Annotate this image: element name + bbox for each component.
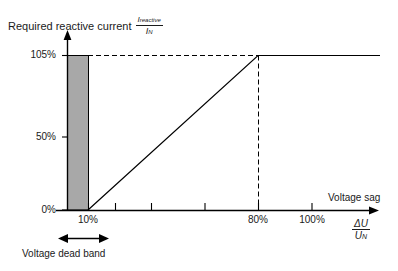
x-tick-label-100: 100% (290, 214, 334, 225)
y-tick-label-0: 0% (12, 204, 56, 215)
plot-canvas (0, 0, 398, 271)
data-series-required-reactive-current (88, 56, 380, 211)
x-tick-label-80: 80% (236, 214, 280, 225)
x-axis-unit-denominator-subscript: N (362, 233, 367, 240)
y-tick-label-105: 105% (12, 49, 56, 60)
y-axis-arrowhead (64, 30, 72, 40)
x-axis-ticks (89, 203, 313, 210)
dead-band-caption: Voltage dead band (22, 248, 105, 259)
x-axis-unit-denominator: UN (352, 229, 370, 243)
dead-band-region (68, 56, 89, 211)
dead-band-span-arrow (58, 234, 109, 243)
chart-figure: Required reactive currentIreactiveIN (0, 0, 398, 271)
x-axis-unit-numerator: ΔU (352, 218, 370, 229)
x-axis-arrowhead (369, 207, 379, 215)
y-tick-label-50: 50% (12, 131, 56, 142)
x-axis-label: Voltage sag (328, 192, 380, 203)
x-tick-label-10: 10% (66, 214, 110, 225)
x-axis-unit-fraction: ΔU UN (352, 218, 370, 243)
y-axis-ticks (62, 56, 68, 211)
